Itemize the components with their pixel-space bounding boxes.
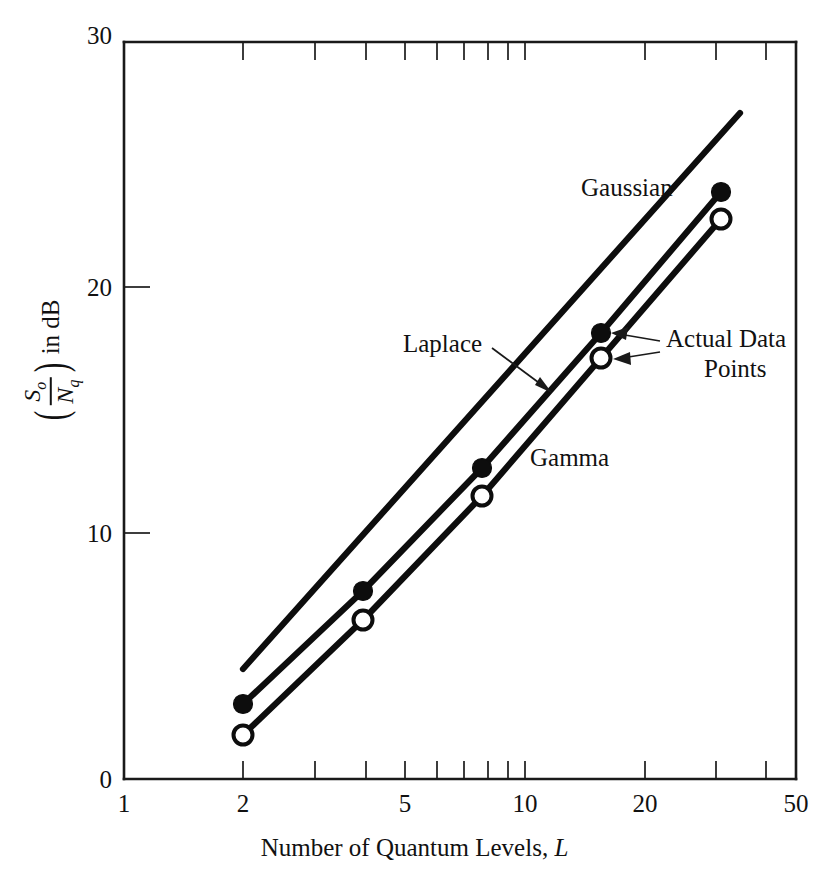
x-tick-label-1: 1 [118, 790, 131, 817]
axes-frame [124, 42, 796, 779]
actual-data-leader-arrow-open [613, 352, 660, 365]
data-point-marker [592, 324, 611, 343]
x-axis-title-symbol: L [554, 834, 568, 861]
x-tick-label-50: 50 [784, 790, 809, 817]
laplace-label: Laplace [403, 330, 482, 357]
data-point-marker [234, 695, 253, 714]
y-tick-label-10: 10 [87, 520, 112, 547]
top-axis-ticks [243, 42, 766, 60]
data-point-marker [473, 459, 492, 478]
data-point-marker [712, 183, 731, 202]
actual-data-points-label-line1: Actual Data [666, 325, 786, 352]
y-tick-label-20: 20 [87, 274, 112, 301]
y-tick-label-0: 0 [100, 766, 113, 793]
x-tick-label-2: 2 [237, 790, 250, 817]
data-point-marker [473, 487, 492, 506]
series-laplace [234, 183, 731, 714]
chart-figure: 30 20 10 0 1 2 5 10 20 50 Gaussian Lapla… [0, 0, 829, 873]
y-axis-ticks [124, 287, 150, 533]
x-tick-label-5: 5 [399, 790, 412, 817]
gamma-label: Gamma [530, 444, 609, 471]
data-point-marker [234, 726, 253, 745]
x-axis-ticks [243, 761, 766, 779]
gaussian-label: Gaussian [581, 174, 673, 201]
chart-plot-area: 30 20 10 0 1 2 5 10 20 50 Gaussian Lapla… [0, 0, 829, 873]
actual-data-points-label-line2: Points [704, 355, 767, 382]
x-tick-label-20: 20 [633, 790, 658, 817]
x-axis-title: Number of Quantum Levels, L [0, 834, 829, 862]
data-point-marker [592, 349, 611, 368]
x-tick-label-10: 10 [513, 790, 538, 817]
data-point-marker [354, 611, 373, 630]
y-tick-label-30: 30 [87, 22, 112, 49]
data-point-marker [712, 210, 731, 229]
data-point-marker [354, 582, 373, 601]
x-axis-title-text: Number of Quantum Levels, [261, 834, 555, 861]
